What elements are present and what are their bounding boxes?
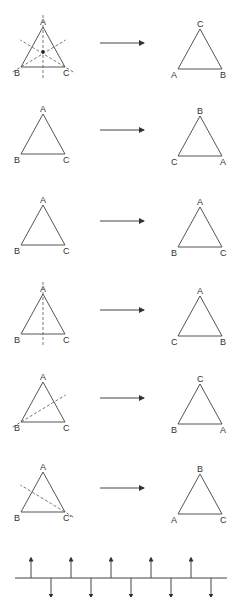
vertex-label-bottom-left: B xyxy=(14,246,20,256)
vertex-label-bottom-left: B xyxy=(14,513,20,523)
vertex-label-bottom-right: A xyxy=(220,157,226,167)
left-triangle: ABC xyxy=(14,104,70,165)
right-triangle: CBA xyxy=(171,374,226,435)
vertex-label-bottom-right: C xyxy=(220,515,227,525)
vertex-label-bottom-right: C xyxy=(63,246,70,256)
vertex-label-top: A xyxy=(40,195,46,205)
row-reflection-through-A: ABCACB xyxy=(14,282,226,347)
vertex-label-bottom-right: C xyxy=(63,68,70,78)
vertex-label-top: B xyxy=(197,106,203,116)
vertex-label-top: C xyxy=(197,19,204,29)
vertex-label-bottom-right: C xyxy=(63,335,70,345)
symmetry-diagram: ABCCABABCBCAABCABCABCACBABCCBAABC'BAC xyxy=(0,0,245,597)
vertex-label-top: A xyxy=(40,372,46,382)
row-rotation-240: ABCBCA xyxy=(14,104,226,167)
vertex-label-bottom-right: B xyxy=(220,337,226,347)
right-triangle: CAB xyxy=(171,19,226,80)
vertex-label-bottom-right: C' xyxy=(63,513,71,523)
left-triangle: ABC xyxy=(14,282,70,346)
vertex-label-top: B xyxy=(197,464,203,474)
vertex-label-bottom-left: B xyxy=(14,335,20,345)
row-rotation-120: ABCCAB xyxy=(13,15,226,80)
vertex-label-top: A xyxy=(197,286,203,296)
right-triangle: BCA xyxy=(171,106,226,167)
left-triangle: ABC' xyxy=(14,462,73,523)
vertex-label-bottom-left: A xyxy=(171,70,177,80)
right-triangle: ABC xyxy=(171,197,227,258)
vertex-label-bottom-left: B xyxy=(14,68,20,78)
left-triangle: ABC xyxy=(13,372,70,433)
vertex-label-bottom-left: B xyxy=(14,423,20,433)
row-identity: ABCABC xyxy=(14,195,227,258)
row-reflection-through-C: ABC'BAC xyxy=(14,462,227,525)
vertex-label-bottom-right: C xyxy=(63,155,70,165)
vertex-label-top: A xyxy=(197,197,203,207)
left-triangle: ABC xyxy=(14,195,70,256)
vertex-label-bottom-left: B xyxy=(14,155,20,165)
vertex-label-bottom-left: A xyxy=(171,515,177,525)
vertex-label-bottom-right: A xyxy=(220,425,226,435)
vertex-label-bottom-left: C xyxy=(171,157,178,167)
impulse-train xyxy=(15,559,227,596)
center-point xyxy=(41,50,45,54)
vertex-label-bottom-left: B xyxy=(171,248,177,258)
right-triangle: BAC xyxy=(171,464,227,525)
vertex-label-top: A xyxy=(40,462,46,472)
right-triangle: ACB xyxy=(171,286,226,347)
vertex-label-bottom-left: C xyxy=(171,337,178,347)
row-reflection-through-B: ABCCBA xyxy=(13,372,226,435)
vertex-label-bottom-right: B xyxy=(220,70,226,80)
vertex-label-bottom-left: B xyxy=(171,425,177,435)
left-triangle: ABC xyxy=(13,15,74,79)
vertex-label-top: C xyxy=(197,374,204,384)
vertex-label-bottom-right: C xyxy=(220,248,227,258)
vertex-label-bottom-right: C xyxy=(63,423,70,433)
vertex-label-top: A xyxy=(40,104,46,114)
